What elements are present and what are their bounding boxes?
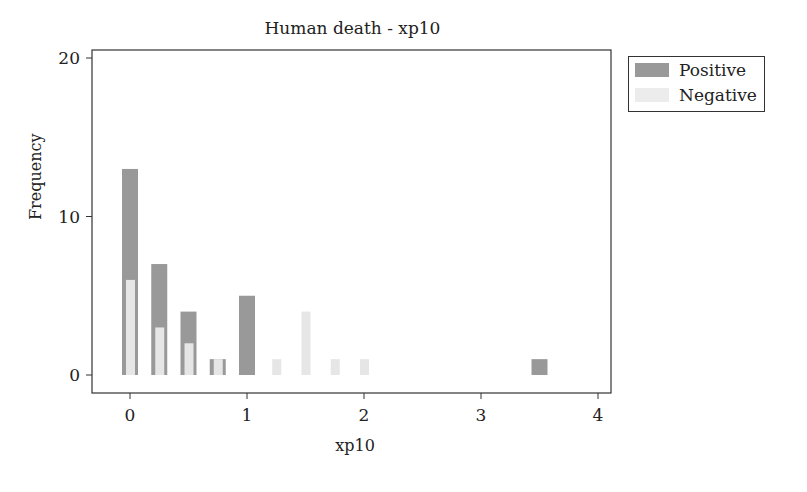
x-tick-label: 4 bbox=[593, 405, 604, 425]
legend-label-positive: Positive bbox=[679, 60, 746, 80]
x-tick-label: 2 bbox=[359, 405, 370, 425]
bar-negative bbox=[331, 359, 340, 375]
y-tick-label: 10 bbox=[58, 207, 80, 227]
x-tick-label: 0 bbox=[125, 405, 136, 425]
y-tick-label: 0 bbox=[69, 365, 80, 385]
bar-negative bbox=[360, 359, 369, 375]
bar-negative bbox=[214, 359, 223, 375]
legend-item-positive: Positive bbox=[635, 60, 746, 80]
x-tick-label: 1 bbox=[242, 405, 253, 425]
bar-positive bbox=[239, 296, 255, 375]
bar-negative bbox=[272, 359, 281, 375]
x-tick-label: 3 bbox=[476, 405, 487, 425]
bar-negative bbox=[126, 280, 135, 375]
legend-label-negative: Negative bbox=[679, 85, 757, 105]
bar-negative bbox=[302, 312, 311, 375]
legend-item-negative: Negative bbox=[635, 85, 757, 105]
bar-positive bbox=[532, 359, 548, 375]
plot-frame bbox=[92, 50, 611, 393]
y-tick-label: 20 bbox=[58, 48, 80, 68]
negative-swatch bbox=[635, 88, 669, 102]
legend: Positive Negative bbox=[628, 56, 765, 112]
positive-swatch bbox=[635, 63, 669, 77]
bar-negative bbox=[185, 343, 194, 375]
bar-negative bbox=[155, 327, 164, 375]
